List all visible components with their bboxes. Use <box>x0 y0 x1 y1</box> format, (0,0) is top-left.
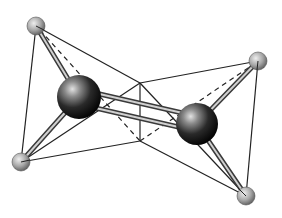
molecule-svg <box>0 0 282 218</box>
atom-m2 <box>176 103 218 145</box>
molecule-diagram <box>0 0 282 218</box>
metal-atoms <box>57 75 218 145</box>
edge-l2-l4 <box>246 61 258 196</box>
edge-l1-l3 <box>21 26 36 162</box>
wireframe <box>21 26 258 196</box>
atom-m1 <box>57 75 101 119</box>
